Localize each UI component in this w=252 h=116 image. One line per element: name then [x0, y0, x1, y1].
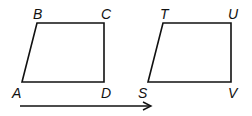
quadrilateral-abcd: [22, 23, 104, 82]
translation-diagram: A B C D S T U V: [0, 0, 252, 116]
vertex-label-v: V: [228, 85, 239, 101]
vertex-label-s: S: [138, 85, 148, 101]
quadrilateral-stuv: [148, 23, 231, 82]
vertex-label-b: B: [33, 6, 42, 22]
vertex-label-d: D: [101, 85, 111, 101]
vertex-label-c: C: [101, 6, 112, 22]
vertex-label-a: A: [11, 85, 21, 101]
vertex-label-u: U: [228, 6, 239, 22]
vertex-label-t: T: [160, 6, 170, 22]
